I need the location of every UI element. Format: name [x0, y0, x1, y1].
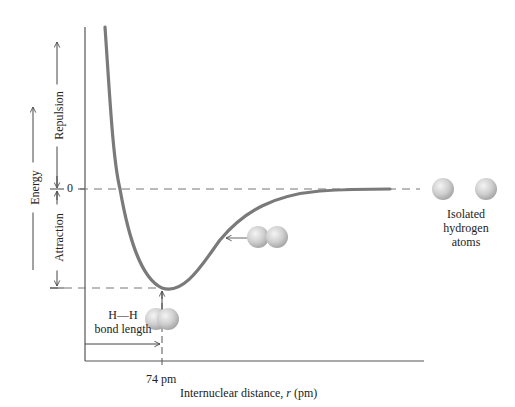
isolated-line3: atoms: [434, 235, 498, 249]
isolated-h-atom-right: [475, 178, 497, 200]
bond-length-line2: bond length: [87, 322, 159, 336]
bond-length-label: H—H bond length: [87, 308, 159, 336]
h-atom-mid-right: [266, 226, 288, 248]
x-axis-label: Internuclear distance, r (pm): [180, 386, 317, 401]
energy-label: Energy: [28, 163, 43, 213]
potential-energy-diagram: [0, 0, 515, 407]
x-axis-label-prefix: Internuclear distance,: [180, 386, 286, 400]
repulsion-label: Repulsion: [52, 85, 67, 147]
h2-molecule-right: [157, 308, 179, 330]
bond-length-line1: H—H: [87, 308, 159, 322]
potential-energy-curve: [105, 27, 390, 289]
isolated-atoms-label: Isolated hydrogen atoms: [434, 207, 498, 249]
x-tick-74pm: 74 pm: [146, 372, 176, 387]
x-axis-label-suffix: (pm): [291, 386, 317, 400]
isolated-line2: hydrogen: [434, 221, 498, 235]
attraction-label: Attraction: [52, 205, 67, 271]
h-atom-mid-left: [247, 226, 269, 248]
isolated-line1: Isolated: [434, 207, 498, 221]
zero-tick-label: 0: [67, 181, 73, 196]
isolated-h-atom-left: [432, 178, 454, 200]
